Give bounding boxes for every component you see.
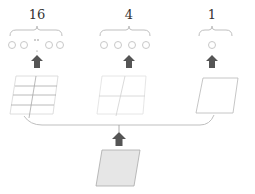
- arrow-up-icon: [31, 55, 43, 68]
- bin-circle: [209, 42, 216, 49]
- bin-circle: [46, 42, 53, 49]
- grid-level-1: [196, 78, 238, 113]
- bin-circle: [129, 42, 136, 49]
- bin-circle: [21, 42, 28, 49]
- braces: [10, 26, 232, 36]
- arrows: [31, 55, 218, 146]
- arrow-up-icon: [123, 55, 135, 68]
- arrow-up-icon: [112, 132, 126, 146]
- brace-level-4: [100, 26, 150, 36]
- arrow-up-icon: [206, 55, 218, 68]
- bin-circle: [57, 42, 64, 49]
- brace-level-16: [10, 26, 62, 36]
- grid-level-4: [97, 76, 146, 116]
- input-feature-map: [96, 150, 140, 186]
- bin-circle: [9, 42, 16, 49]
- brace-level-1: [199, 26, 232, 36]
- bin-circle: [101, 42, 108, 49]
- ellipsis-dots: [34, 39, 38, 51]
- output-bins: [9, 42, 216, 49]
- spatial-pyramid-diagram: [0, 0, 255, 194]
- bin-circle: [115, 42, 122, 49]
- connector-bracket: [24, 115, 214, 125]
- bin-circle: [143, 42, 150, 49]
- grid-level-16: [10, 76, 58, 118]
